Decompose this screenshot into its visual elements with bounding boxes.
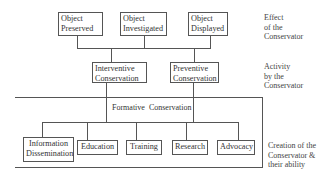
connector xyxy=(194,48,195,62)
node-line: Information xyxy=(26,139,71,149)
group-label-formative-conservation: Formative Conservation xyxy=(112,103,192,113)
label-line: Conservator xyxy=(264,81,303,91)
connector xyxy=(238,122,239,140)
label-line: Creation of the xyxy=(268,141,316,151)
connector xyxy=(111,48,112,62)
node-training: Training xyxy=(126,140,162,155)
node-line: Interventive xyxy=(95,64,144,74)
node-interventive-conservation: Interventive Conservation xyxy=(92,62,147,83)
node-line: Research xyxy=(175,142,205,152)
node-line: Advocacy xyxy=(220,142,252,152)
node-object-investigated: Object Investigated xyxy=(120,12,167,36)
node-research: Research xyxy=(172,140,208,155)
node-preventive-conservation: Preventive Conservation xyxy=(170,62,219,83)
node-line: Displayed xyxy=(191,24,225,34)
node-information-dissemination: Information Dissemination xyxy=(23,137,74,162)
node-line: Conservation xyxy=(95,74,144,84)
side-label-effect: Effect of the Conservator xyxy=(264,13,303,42)
node-line: Education xyxy=(80,142,115,152)
label-line: Effect xyxy=(264,13,303,23)
frame-right xyxy=(262,97,263,168)
node-line: Object xyxy=(123,14,164,24)
connector xyxy=(186,122,187,140)
connector xyxy=(87,122,88,140)
label-line: by the xyxy=(264,72,303,82)
label-line: Activity xyxy=(264,62,303,72)
label-line: Conservator & xyxy=(268,151,316,161)
node-object-displayed: Object Displayed xyxy=(188,12,228,36)
connector xyxy=(77,48,211,49)
label-line: Conservator xyxy=(264,32,303,42)
connector xyxy=(106,83,107,123)
connector xyxy=(136,122,137,140)
frame-bottom xyxy=(15,167,263,168)
side-label-activity: Activity by the Conservator xyxy=(264,62,303,91)
node-line: Conservation xyxy=(173,74,216,84)
connector xyxy=(193,83,194,123)
node-line: Training xyxy=(129,142,159,152)
node-line: Dissemination xyxy=(26,149,71,159)
node-object-preserved: Object Preserved xyxy=(58,12,103,36)
node-line: Preventive xyxy=(173,64,216,74)
node-line: Object xyxy=(61,14,100,24)
node-line: Investigated xyxy=(123,24,164,34)
label-line: their ability xyxy=(268,160,316,170)
frame-top xyxy=(15,97,263,98)
connector xyxy=(42,122,43,137)
branch-line xyxy=(42,122,239,123)
node-education: Education xyxy=(77,140,118,155)
node-line: Object xyxy=(191,14,225,24)
node-line: Preserved xyxy=(61,24,100,34)
side-label-creation: Creation of the Conservator & their abil… xyxy=(268,141,316,170)
label-line: of the xyxy=(264,23,303,33)
node-advocacy: Advocacy xyxy=(217,140,255,155)
